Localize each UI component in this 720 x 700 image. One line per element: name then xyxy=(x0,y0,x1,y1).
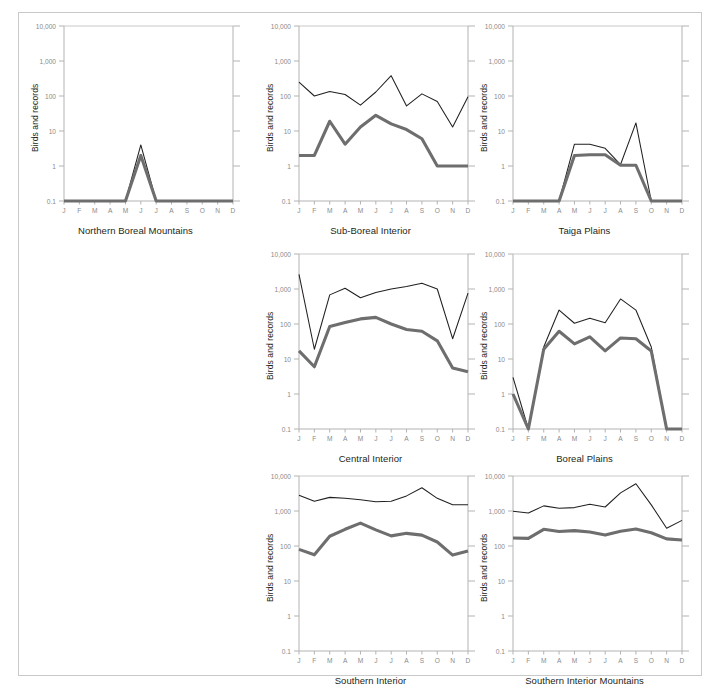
x-tick-label: A xyxy=(557,435,562,442)
x-tick-label: M xyxy=(541,657,547,664)
series-line-records xyxy=(513,484,682,529)
x-tick-label: A xyxy=(404,435,409,442)
chart-panel: 10,0001,0001001010.1JFMAMJJASONDBirds an… xyxy=(253,12,488,247)
y-tick-label: 1 xyxy=(287,391,291,398)
plot-area: 10,0001,0001001010.1JFMAMJJASOND xyxy=(467,12,702,229)
series-line-birds xyxy=(513,331,682,429)
x-tick-label: M xyxy=(572,207,578,214)
x-tick-label: J xyxy=(390,657,393,664)
y-tick-label: 1,000 xyxy=(488,286,505,293)
x-tick-label: J xyxy=(604,657,607,664)
x-tick-label: F xyxy=(77,207,81,214)
y-tick-label: 10,000 xyxy=(485,251,506,258)
y-axis-title: Birds and records xyxy=(265,586,275,602)
x-tick-label: J xyxy=(588,657,591,664)
panel-title: Southern Interior Mountains xyxy=(467,675,702,686)
x-tick-label: A xyxy=(343,657,348,664)
x-tick-label: M xyxy=(92,207,98,214)
plot-area: 10,0001,0001001010.1JFMAMJJASOND xyxy=(253,240,488,457)
x-tick-label: A xyxy=(618,207,623,214)
series-line-birds xyxy=(513,529,682,540)
series-line-birds xyxy=(299,317,468,371)
x-tick-label: S xyxy=(420,435,425,442)
x-tick-label: A xyxy=(343,207,348,214)
y-axis-title: Birds and records xyxy=(479,364,489,380)
y-tick-label: 10,000 xyxy=(271,251,292,258)
y-axis-title: Birds and records xyxy=(265,364,275,380)
x-tick-label: J xyxy=(390,435,393,442)
y-axis-title: Birds and records xyxy=(479,586,489,602)
y-tick-label: 10,000 xyxy=(36,23,57,30)
y-tick-label: 0.1 xyxy=(496,198,505,205)
x-tick-label: D xyxy=(680,207,685,214)
x-tick-label: F xyxy=(312,435,316,442)
x-tick-label: F xyxy=(526,207,530,214)
x-tick-label: S xyxy=(420,657,425,664)
x-tick-label: S xyxy=(420,207,425,214)
x-tick-label: S xyxy=(634,657,639,664)
x-tick-label: O xyxy=(435,435,440,442)
y-tick-label: 1 xyxy=(287,613,291,620)
chart-panel: 10,0001,0001001010.1JFMAMJJASONDBirds an… xyxy=(18,12,253,247)
y-tick-label: 0.1 xyxy=(282,426,291,433)
x-tick-label: J xyxy=(297,657,300,664)
y-tick-label: 1,000 xyxy=(39,58,56,65)
x-tick-label: M xyxy=(541,435,547,442)
x-tick-label: N xyxy=(664,207,669,214)
x-tick-label: J xyxy=(155,207,158,214)
y-tick-label: 0.1 xyxy=(47,198,56,205)
x-tick-label: S xyxy=(634,435,639,442)
x-tick-label: F xyxy=(526,435,530,442)
y-tick-label: 100 xyxy=(494,543,505,550)
x-tick-label: J xyxy=(374,435,377,442)
figure-small-multiples-panel-grid: 10,0001,0001001010.1JFMAMJJASONDBirds an… xyxy=(0,0,720,700)
y-tick-label: 100 xyxy=(280,543,291,550)
series-line-birds xyxy=(64,155,233,201)
y-tick-label: 0.1 xyxy=(496,648,505,655)
x-tick-label: N xyxy=(450,207,455,214)
y-tick-label: 0.1 xyxy=(282,648,291,655)
x-tick-label: J xyxy=(588,207,591,214)
plot-area: 10,0001,0001001010.1JFMAMJJASOND xyxy=(467,462,702,679)
x-tick-label: O xyxy=(435,207,440,214)
series-line-records xyxy=(513,299,682,429)
y-axis-title: Birds and records xyxy=(479,136,489,152)
x-tick-label: J xyxy=(604,207,607,214)
y-tick-label: 10 xyxy=(284,128,292,135)
x-tick-label: J xyxy=(588,435,591,442)
x-tick-label: M xyxy=(572,657,578,664)
x-tick-label: M xyxy=(358,207,364,214)
chart-panel: 10,0001,0001001010.1JFMAMJJASONDBirds an… xyxy=(467,462,702,697)
chart-panel: 10,0001,0001001010.1JFMAMJJASONDBirds an… xyxy=(467,240,702,475)
x-tick-label: J xyxy=(297,435,300,442)
x-tick-label: J xyxy=(139,207,142,214)
panel-title: Northern Boreal Mountains xyxy=(18,225,253,236)
y-tick-label: 10 xyxy=(498,578,506,585)
y-tick-label: 10 xyxy=(498,356,506,363)
x-tick-label: A xyxy=(404,657,409,664)
series-line-birds xyxy=(299,523,468,555)
x-tick-label: S xyxy=(634,207,639,214)
x-tick-label: O xyxy=(649,207,654,214)
x-tick-label: O xyxy=(649,435,654,442)
series-line-birds xyxy=(299,115,468,166)
y-tick-label: 1 xyxy=(287,163,291,170)
plot-area: 10,0001,0001001010.1JFMAMJJASOND xyxy=(467,240,702,457)
plot-area: 10,0001,0001001010.1JFMAMJJASOND xyxy=(253,12,488,229)
x-tick-label: F xyxy=(312,207,316,214)
x-tick-label: A xyxy=(343,435,348,442)
x-tick-label: J xyxy=(374,657,377,664)
x-tick-label: N xyxy=(450,657,455,664)
x-tick-label: N xyxy=(664,435,669,442)
x-tick-label: J xyxy=(604,435,607,442)
x-tick-label: A xyxy=(404,207,409,214)
x-tick-label: M xyxy=(358,657,364,664)
x-tick-label: F xyxy=(312,657,316,664)
y-tick-label: 0.1 xyxy=(282,198,291,205)
x-tick-label: O xyxy=(649,657,654,664)
plot-area: 10,0001,0001001010.1JFMAMJJASOND xyxy=(18,12,253,229)
plot-area: 10,0001,0001001010.1JFMAMJJASOND xyxy=(253,462,488,679)
y-tick-label: 100 xyxy=(45,93,56,100)
x-tick-label: A xyxy=(557,657,562,664)
x-tick-label: J xyxy=(297,207,300,214)
